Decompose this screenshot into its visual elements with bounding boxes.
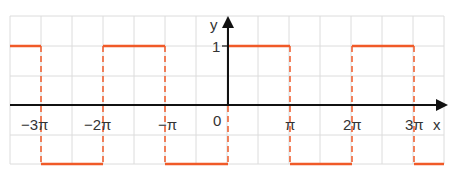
x-tick-label-3pi: 3π — [405, 116, 424, 133]
y-tick-label-1: 1 — [212, 38, 220, 55]
x-tick-label-neg2pi: −2π — [84, 116, 111, 133]
x-tick-label-negpi: −π — [158, 116, 177, 133]
x-tick-label-neg3pi: −3π — [21, 116, 48, 133]
x-axis-arrow-icon — [436, 99, 448, 111]
x-tick-label-pi: π — [285, 116, 295, 133]
square-wave-chart: y 1 −3π −2π −π 0 π 2π 3π x — [0, 0, 464, 174]
x-axis-label: x — [433, 116, 441, 133]
y-axis-label: y — [210, 16, 218, 33]
x-tick-label-2pi: 2π — [343, 116, 362, 133]
y-axis-arrow-icon — [222, 16, 234, 28]
axes — [10, 26, 438, 105]
origin-label: 0 — [213, 112, 221, 129]
